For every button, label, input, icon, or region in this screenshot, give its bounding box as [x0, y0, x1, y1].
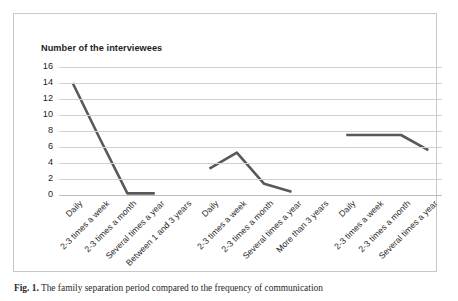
gridline-16 — [59, 67, 442, 68]
y-tick-label-0: 0 — [48, 190, 53, 199]
gridline-14 — [59, 83, 442, 84]
plot-area: 0246810121416 — [59, 67, 442, 195]
figure-root: Number of the interviewees 0246810121416… — [0, 0, 458, 301]
y-tick-label-2: 2 — [48, 174, 53, 183]
chart-axis-title: Number of the interviewees — [41, 43, 162, 53]
y-tick-label-6: 6 — [48, 142, 53, 151]
figure-caption-text: The family separation period compared to… — [41, 283, 323, 293]
y-tick-label-4: 4 — [48, 158, 53, 167]
gridline-10 — [59, 115, 442, 116]
x-tick-label-0: Daily — [64, 199, 84, 219]
gridline-8 — [59, 131, 442, 132]
series-segment — [209, 153, 291, 192]
gridline-2 — [59, 179, 442, 180]
gridline-4 — [59, 163, 442, 164]
x-tick-label-10: Daily — [338, 199, 358, 219]
y-tick-label-10: 10 — [43, 110, 53, 119]
chart-frame: Number of the interviewees 0246810121416… — [13, 13, 437, 272]
y-tick-label-16: 16 — [43, 62, 53, 71]
x-tick-label-5: Daily — [201, 199, 221, 219]
y-tick-label-8: 8 — [48, 126, 53, 135]
x-tick-label-9: More than 3 years — [275, 199, 330, 254]
y-tick-label-14: 14 — [43, 78, 53, 87]
x-axis-labels: Daily2-3 times a week2-3 times a monthSe… — [59, 195, 442, 283]
gridline-12 — [59, 99, 442, 100]
y-tick-label-12: 12 — [43, 94, 53, 103]
figure-caption: Fig. 1. The family separation period com… — [14, 283, 448, 294]
figure-number: Fig. 1. — [14, 283, 39, 293]
gridline-6 — [59, 147, 442, 148]
